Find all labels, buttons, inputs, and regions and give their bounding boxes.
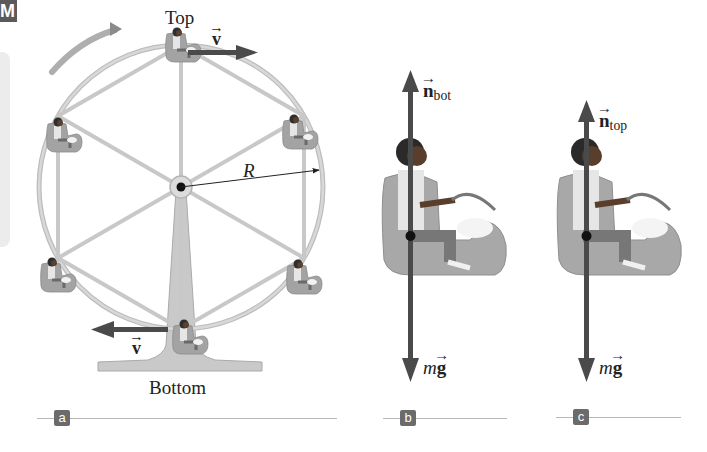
center-of-mass-dot-c (582, 231, 592, 241)
top-label: Top (165, 7, 194, 29)
rider-free-body-bottom (382, 138, 506, 275)
g-symbol: g (437, 357, 447, 379)
panel-a-rule (37, 418, 337, 419)
g-symbol: g (613, 357, 623, 379)
normal-subscript: bot (434, 88, 451, 103)
rider-top (166, 28, 201, 63)
normal-symbol: n (423, 80, 434, 102)
velocity-bottom-label: v (132, 338, 141, 359)
rider-free-body-top (557, 138, 681, 275)
velocity-top-label: v (212, 29, 221, 50)
normal-subscript: top (610, 118, 627, 133)
panel-tag-b: b (400, 410, 416, 426)
panel-tag-c: c (573, 409, 589, 425)
panel-tag-a: a (54, 410, 70, 426)
bottom-label: Bottom (149, 377, 206, 399)
normal-force-top-label: ntop (599, 110, 627, 134)
gravity-label-b: mg (423, 357, 446, 379)
normal-force-bot-label: nbot (423, 80, 451, 104)
figure-drawing (0, 0, 707, 452)
rider-lower-right (287, 260, 322, 295)
radius-label: R (243, 160, 255, 182)
gravity-label-c: mg (599, 357, 622, 379)
velocity-symbol: v (212, 29, 221, 50)
normal-symbol: n (599, 110, 610, 132)
center-of-mass-dot-b (406, 231, 416, 241)
velocity-symbol: v (132, 338, 141, 359)
rider-upper-left (47, 118, 82, 153)
